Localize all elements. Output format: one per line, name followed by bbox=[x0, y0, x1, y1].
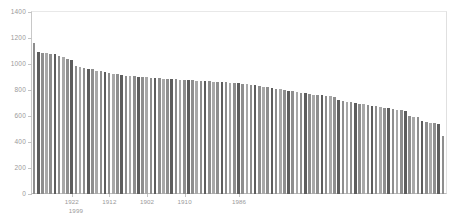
bar bbox=[95, 71, 98, 195]
bar bbox=[137, 77, 140, 194]
bar bbox=[104, 72, 107, 194]
bar bbox=[425, 122, 428, 194]
bar bbox=[254, 85, 257, 194]
bar bbox=[387, 108, 390, 194]
bar bbox=[120, 75, 123, 194]
y-axis-tick-label: 400 bbox=[15, 139, 26, 146]
bar bbox=[66, 59, 69, 194]
bar bbox=[421, 121, 424, 194]
bar bbox=[417, 117, 420, 194]
x-axis-tick-label: 1912 bbox=[102, 199, 116, 205]
bar bbox=[145, 77, 148, 194]
x-axis-tick-label: 1986 bbox=[232, 199, 246, 205]
bar bbox=[112, 74, 115, 194]
x-axis-tick-label: 1902 bbox=[140, 199, 154, 205]
bar bbox=[383, 108, 386, 194]
bar bbox=[287, 91, 290, 194]
bar bbox=[216, 82, 219, 194]
bar bbox=[321, 95, 324, 194]
bars-container bbox=[32, 12, 446, 194]
y-axis-tick-label: 800 bbox=[15, 87, 26, 94]
bar bbox=[304, 93, 307, 194]
bar bbox=[41, 53, 44, 194]
bar bbox=[87, 69, 90, 194]
bar bbox=[379, 107, 382, 194]
bar bbox=[70, 60, 73, 194]
bar bbox=[262, 87, 265, 194]
bar bbox=[333, 97, 336, 194]
bar bbox=[175, 79, 178, 194]
bar bbox=[54, 54, 57, 194]
bar bbox=[300, 93, 303, 194]
bar bbox=[141, 77, 144, 194]
bar bbox=[308, 94, 311, 194]
bar bbox=[83, 68, 86, 194]
bar bbox=[350, 102, 353, 194]
bar bbox=[279, 89, 282, 194]
bar bbox=[312, 95, 315, 194]
y-axis-tick-label: 1200 bbox=[11, 35, 26, 42]
bar bbox=[212, 82, 215, 194]
bar bbox=[396, 110, 399, 195]
bar bbox=[433, 123, 436, 194]
bar bbox=[129, 76, 132, 194]
x-axis-tick-mark bbox=[147, 194, 148, 197]
bar bbox=[162, 79, 165, 194]
bar bbox=[158, 78, 161, 194]
bar-slot bbox=[441, 12, 445, 194]
x-axis-tick-label: 1922 bbox=[65, 199, 79, 205]
bar bbox=[233, 83, 236, 194]
bar bbox=[150, 78, 153, 194]
bar bbox=[325, 96, 328, 194]
x-axis-tick-label-secondary: 1999 bbox=[69, 208, 83, 214]
y-axis-tick-label: 200 bbox=[15, 165, 26, 172]
bar bbox=[237, 83, 240, 194]
bar bbox=[221, 82, 224, 194]
bar bbox=[437, 124, 440, 194]
y-axis-tick-label: 1400 bbox=[11, 9, 26, 16]
bar bbox=[45, 53, 48, 194]
bar bbox=[275, 89, 278, 194]
bar bbox=[125, 76, 128, 194]
bar bbox=[329, 96, 332, 194]
bar bbox=[37, 52, 40, 194]
bar bbox=[291, 91, 294, 194]
bar bbox=[62, 57, 65, 194]
y-axis: 1400120010008006004002000 bbox=[0, 0, 31, 195]
x-axis-tick-mark bbox=[185, 194, 186, 197]
bar bbox=[75, 66, 78, 194]
bar bbox=[246, 84, 249, 194]
bar bbox=[408, 116, 411, 194]
bar bbox=[342, 101, 345, 194]
bar-chart: 1400120010008006004002000 19221912190219… bbox=[0, 0, 468, 218]
bar bbox=[208, 81, 211, 194]
bar bbox=[296, 92, 299, 194]
x-axis-tick-mark bbox=[72, 194, 73, 197]
bar bbox=[241, 84, 244, 195]
bar bbox=[358, 104, 361, 194]
bar bbox=[200, 81, 203, 194]
bar bbox=[116, 74, 119, 194]
bar bbox=[375, 106, 378, 194]
bar bbox=[183, 80, 186, 194]
bar bbox=[166, 79, 169, 194]
y-axis-tick-label: 600 bbox=[15, 113, 26, 120]
bar bbox=[204, 81, 207, 194]
x-axis-tick-mark bbox=[239, 194, 240, 197]
y-axis-tick-label: 1000 bbox=[11, 61, 26, 68]
bar bbox=[316, 95, 319, 194]
bar bbox=[108, 73, 111, 194]
bar bbox=[442, 136, 445, 195]
bar bbox=[79, 67, 82, 194]
bar bbox=[392, 109, 395, 194]
x-axis-tick-label: 1910 bbox=[178, 199, 192, 205]
bar bbox=[404, 111, 407, 194]
bar bbox=[170, 79, 173, 194]
bar bbox=[100, 71, 103, 194]
bar bbox=[429, 123, 432, 195]
bar bbox=[191, 80, 194, 194]
bar bbox=[91, 69, 94, 194]
bar bbox=[229, 83, 232, 194]
bar bbox=[195, 81, 198, 194]
bar bbox=[337, 100, 340, 194]
